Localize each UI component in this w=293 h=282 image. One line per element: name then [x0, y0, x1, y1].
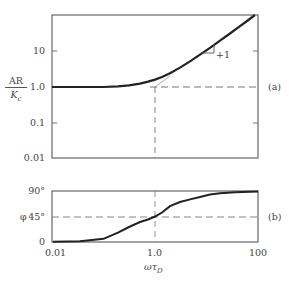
- x-axis-title: ωτD: [144, 262, 163, 275]
- ytick-a-0.01: 0.01: [15, 153, 45, 163]
- ytick-b-45: 45°: [15, 212, 45, 222]
- x-title-main: ωτ: [144, 261, 157, 272]
- phase-curve: [53, 192, 258, 242]
- xtick-1: 1.0: [147, 248, 162, 258]
- ytick-b-0: 0: [15, 237, 45, 247]
- x-title-sub: D: [157, 267, 163, 275]
- xtick-100: 100: [249, 248, 267, 258]
- ytick-a-0.1: 0.1: [15, 118, 45, 128]
- ytick-a-10: 10: [15, 46, 45, 56]
- y-title-den-sub: c: [18, 95, 22, 103]
- ytick-a-1: 1.0: [15, 82, 45, 92]
- xtick-0.01: 0.01: [45, 248, 66, 258]
- panel-a-label: (a): [268, 82, 281, 92]
- panel-b-label: (b): [268, 212, 282, 222]
- ytick-b-90: 90°: [15, 186, 45, 196]
- slope-label: +1: [216, 50, 230, 60]
